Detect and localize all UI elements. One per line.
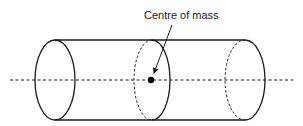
cylinder-diagram: Centre of mass [0,0,303,126]
centre-of-mass-label: Centre of mass [144,9,219,21]
centre-of-mass-dot [148,77,154,83]
